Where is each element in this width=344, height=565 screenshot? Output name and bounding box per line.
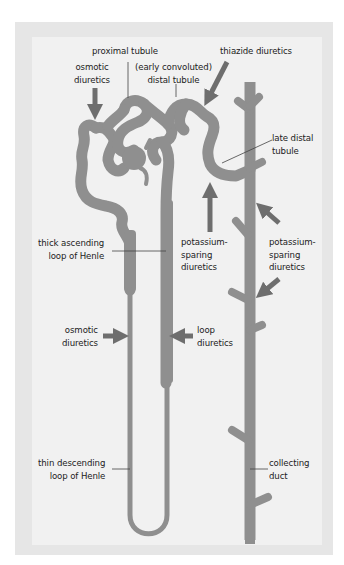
label-loop-diuretics: loop diuretics <box>197 324 233 349</box>
arrow-potassium-sparing-right-top <box>262 208 279 223</box>
label-thick-ascending-loop: thick ascending loop of Henle <box>38 237 104 262</box>
collecting-duct <box>232 82 268 544</box>
label-early-distal-tubule: (early convoluted) distal tubule <box>135 61 212 86</box>
label-osmotic-diuretics-bottom: osmotic diuretics <box>62 324 98 349</box>
label-potassium-sparing-left: potassium- sparing diuretics <box>181 236 228 274</box>
label-collecting-duct: collecting duct <box>269 457 309 482</box>
label-thin-descending-loop: thin descending loop of Henle <box>38 457 105 482</box>
label-thiazide-diuretics: thiazide diuretics <box>220 45 292 58</box>
glomerulus <box>122 146 146 170</box>
label-proximal-tubule: proximal tubule <box>92 45 158 58</box>
label-late-distal-tubule: late distal tubule <box>272 132 313 157</box>
arrow-potassium-sparing-right-bottom <box>262 279 279 293</box>
label-osmotic-diuretics-top: osmotic diuretics <box>74 61 110 86</box>
label-potassium-sparing-right: potassium- sparing diuretics <box>269 236 316 274</box>
loop-of-henle <box>124 200 173 534</box>
